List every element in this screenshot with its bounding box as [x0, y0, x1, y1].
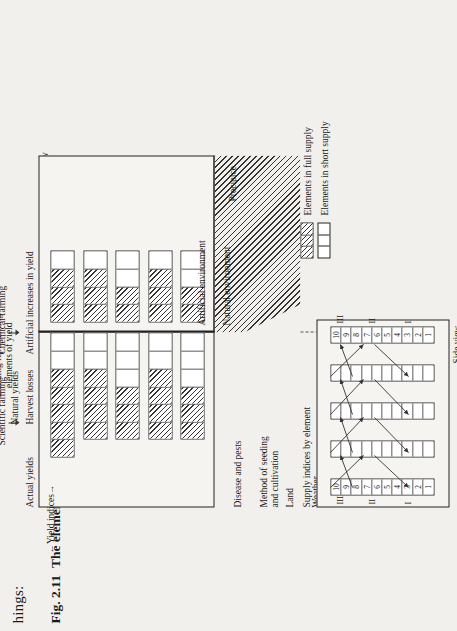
side-view-scale-cell: [392, 365, 402, 380]
front-bar-cell: [116, 251, 138, 269]
front-bar-cell: [51, 438, 73, 456]
side-view-scale-column: 10987654321: [330, 326, 434, 343]
arrowhead-chemical-farming: [15, 330, 19, 336]
side-view-scale-column: [330, 364, 434, 381]
front-bar-cell: [181, 386, 203, 404]
front-bar-cell: [149, 333, 171, 351]
front-bar-natural: [115, 332, 139, 440]
front-bar-cell: [84, 268, 106, 286]
side-view-scale-cell: [331, 441, 341, 456]
legend-swatch-cell: [318, 245, 329, 257]
side-view-scale-cell: [392, 403, 402, 418]
legend-label: Elements in short supply: [319, 121, 329, 215]
legend-swatch-cell: [318, 223, 329, 234]
front-bar-cell: [116, 286, 138, 304]
side-view-scale-column: [330, 440, 434, 457]
arrowhead-scientific-farming: [15, 420, 19, 426]
legend-item: Elements in full supply: [300, 121, 313, 258]
front-bar-cell: [149, 350, 171, 368]
front-bar-cell: [51, 386, 73, 404]
front-bar-cell: [116, 303, 138, 321]
front-bar-cell: [149, 386, 171, 404]
front-bar-cell: [149, 268, 171, 286]
front-bar-cell: [84, 251, 106, 269]
side-view-scale-cell: [382, 403, 392, 418]
side-view-roman-mark: III: [334, 496, 344, 505]
front-bar-cell: [51, 251, 73, 269]
side-view-scale-cell: 6: [372, 327, 382, 342]
side-view-scale-cell: [413, 403, 423, 418]
front-bar-cell: [84, 286, 106, 304]
front-bar-cell: [84, 386, 106, 404]
front-bar-cell: [84, 303, 106, 321]
legend-swatch-cell: [301, 245, 312, 257]
front-bar-cell: [51, 421, 73, 439]
front-bar-cell: [51, 286, 73, 304]
side-view-scale-cell: 8: [351, 479, 361, 494]
label-building-note: Building representing elements of yield: [0, 313, 14, 396]
side-view-scale-cell: 10: [331, 327, 341, 342]
side-view-scale-cell: [331, 403, 341, 418]
front-bar-cell: [181, 403, 203, 421]
side-view-scale-cell: [351, 365, 361, 380]
front-bar-cell: [51, 268, 73, 286]
front-bar-cell: [149, 303, 171, 321]
side-view-scale-cell: [362, 365, 372, 380]
label-harvest-losses: Harvest losses: [24, 369, 34, 424]
front-bar-artificial: [115, 250, 139, 322]
legend-swatch-cell: [301, 234, 312, 246]
side-view-scale-cell: [362, 403, 372, 418]
side-view-roman-mark: I: [402, 501, 412, 504]
label-supply-indices: Supply indices by element: [302, 406, 312, 507]
side-view-scale-cell: 3: [402, 479, 412, 494]
front-bar-cell: [51, 303, 73, 321]
side-view-scale-cell: [413, 441, 423, 456]
side-view-scale-cell: [402, 365, 412, 380]
legend-swatch-cell: [318, 234, 329, 246]
front-bar-cell: [116, 368, 138, 386]
side-view-scale-cell: [372, 441, 382, 456]
side-view-scale-cell: [402, 403, 412, 418]
front-bar-cell: [149, 368, 171, 386]
front-bar-artificial: [83, 250, 107, 322]
front-view-element-label: Disease and pests: [232, 440, 243, 507]
side-view-scale-cell: [402, 441, 412, 456]
label-artificial-environment: Artificial environment: [196, 240, 207, 325]
front-bar-cell: [116, 403, 138, 421]
label-actual-yields: Actual yields: [24, 457, 34, 507]
front-bar-cell: [84, 350, 106, 368]
front-bar-natural: [148, 332, 172, 440]
front-bar-cell: [84, 333, 106, 351]
front-bar-artificial: [50, 250, 74, 322]
side-view-scale-cell: [341, 365, 351, 380]
side-view-scale-cell: 4: [392, 479, 402, 494]
front-view-element-label: Method of seeding and cultivation: [258, 436, 279, 507]
front-bar-cell: [116, 268, 138, 286]
label-natural-environment: Natural environment: [222, 246, 232, 325]
front-bar-cell: [116, 386, 138, 404]
front-bar-cell: [181, 333, 203, 351]
side-view-scale-cell: [341, 403, 351, 418]
front-bar-cell: [51, 403, 73, 421]
front-bar-cell: [149, 251, 171, 269]
side-view-scale-cell: 9: [341, 327, 351, 342]
front-bar-cell: [181, 368, 203, 386]
side-view-scale-cell: 9: [341, 479, 351, 494]
side-view-diagram: 10987654321IIIIII10987654321IIIIII: [316, 319, 449, 507]
side-view-scale-cell: [423, 365, 433, 380]
side-view-roman-mark: I: [402, 320, 412, 323]
legend-swatch-hatched: [300, 222, 313, 258]
label-precipice: Precipice: [228, 166, 238, 201]
side-view-scale-column: 10987654321: [330, 478, 434, 495]
front-bar-artificial: [148, 250, 172, 322]
side-view-scale-cell: 5: [382, 479, 392, 494]
legend-swatch-plain: [317, 222, 330, 258]
side-view-roman-mark: II: [366, 498, 376, 504]
side-view-scale-cell: 7: [362, 479, 372, 494]
label-artificial-increases: Artificial increases in yield: [24, 251, 34, 354]
side-view-scale-cell: [423, 441, 433, 456]
front-bar-cell: [149, 403, 171, 421]
front-bar-cell: [84, 421, 106, 439]
legend-item: Elements in short supply: [317, 121, 330, 258]
front-bar-cell: [51, 333, 73, 351]
